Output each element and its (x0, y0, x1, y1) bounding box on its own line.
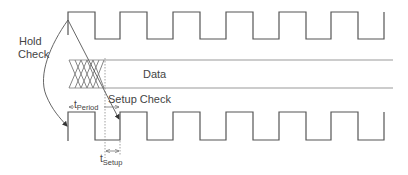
t-setup-label: tSetup (100, 153, 122, 167)
hold-check-label-line1: Hold (19, 35, 42, 47)
t-setup-dimension: tSetup (100, 141, 122, 167)
hold-check-label-line2: Check (18, 48, 50, 60)
data-bus: Data (69, 60, 393, 88)
data-label: Data (143, 68, 167, 80)
launch-clock-waveform (68, 12, 384, 39)
capture-clock-waveform (68, 112, 384, 141)
timing-diagram: Data Hold Check Setup Check tPeriod tSet… (0, 0, 408, 175)
t-period-label: tPeriod (74, 99, 98, 112)
setup-check-label: Setup Check (108, 93, 171, 105)
hold-check-arrow (43, 20, 68, 126)
data-transition-hatch (69, 60, 104, 88)
